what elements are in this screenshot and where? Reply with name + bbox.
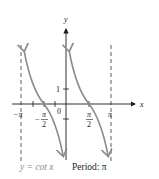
tick-label-neg-pi: −π <box>13 110 23 119</box>
tick-label-half-pi-num: π <box>87 110 92 119</box>
cot-curve-right <box>69 50 108 155</box>
cot-curve-left <box>24 50 63 155</box>
tick-label-one: 1 <box>56 85 60 94</box>
tick-label-neg-half-pi-den: 2 <box>42 120 46 129</box>
tick-label-neg-half-pi-num: π <box>42 110 47 119</box>
tick-label-half-pi-den: 2 <box>87 120 91 129</box>
tick-label-zero: 0 <box>57 107 61 116</box>
y-axis-label: y <box>63 15 68 24</box>
period-caption: Period: π <box>72 162 107 172</box>
x-axis-label: x <box>139 100 144 109</box>
tick-label-neg-half-pi-sign: − <box>35 115 40 124</box>
cot-graph: y x 1 0 −π π − π 2 π 2 <box>0 0 159 179</box>
equation-caption: y = cot x <box>20 162 54 172</box>
tick-label-pi: π <box>108 110 113 119</box>
